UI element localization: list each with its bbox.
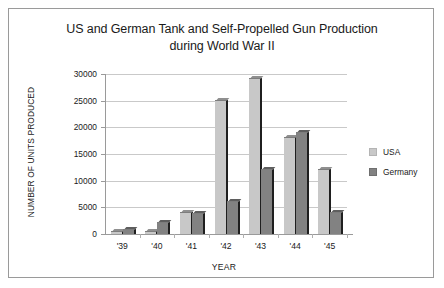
x-axis-tick-label: '39	[107, 241, 137, 251]
chart-legend: USA Germany	[369, 142, 417, 182]
legend-item-usa: USA	[369, 142, 417, 162]
x-axis-tick-label: '44	[280, 241, 310, 251]
y-axis-tick-label: 15000	[53, 149, 97, 159]
y-axis-tick-label: 10000	[53, 176, 97, 186]
y-axis-tick	[101, 154, 105, 155]
y-axis-tick	[101, 101, 105, 102]
y-axis-tick-label: 0	[53, 229, 97, 239]
plot-area	[105, 74, 347, 234]
bar-front-face	[123, 229, 136, 234]
bar-usa-45	[318, 170, 329, 234]
chart-title-line-1: US and German Tank and Self-Propelled Gu…	[29, 21, 415, 38]
y-axis-tick	[101, 207, 105, 208]
x-axis-tick	[347, 234, 348, 238]
bar-germany-39	[123, 230, 134, 234]
bar-front-face	[330, 212, 343, 234]
bar-usa-40	[145, 232, 156, 234]
y-axis-tick-label: 25000	[53, 96, 97, 106]
y-axis-line	[105, 74, 106, 234]
y-axis-title: NUMBER OF UNITS PRODUCED	[26, 72, 36, 232]
legend-item-germany: Germany	[369, 162, 417, 182]
legend-label-usa: USA	[383, 147, 400, 157]
y-axis-tick	[101, 181, 105, 182]
bar-germany-43	[261, 170, 272, 234]
legend-swatch-germany	[369, 168, 377, 176]
bar-front-face	[296, 132, 309, 234]
x-axis-tick	[140, 234, 141, 238]
bar-germany-41	[192, 214, 203, 234]
x-axis-tick-label: '42	[211, 241, 241, 251]
bar-usa-43	[249, 79, 260, 234]
x-axis-tick	[243, 234, 244, 238]
y-axis-tick-label: 20000	[53, 122, 97, 132]
x-axis-tick	[174, 234, 175, 238]
x-axis-tick	[209, 234, 210, 238]
bar-front-face	[192, 213, 205, 234]
x-axis-tick	[312, 234, 313, 238]
bar-germany-44	[296, 133, 307, 234]
bar-germany-45	[330, 213, 341, 234]
bar-germany-42	[227, 202, 238, 234]
chart-title: US and German Tank and Self-Propelled Gu…	[29, 21, 415, 55]
x-axis-tick-label: '41	[176, 241, 206, 251]
y-axis-tick	[101, 234, 105, 235]
x-axis-tick-label: '43	[246, 241, 276, 251]
y-axis-tick	[101, 74, 105, 75]
x-axis-tick	[278, 234, 279, 238]
chart-title-line-2: during World War II	[29, 38, 415, 55]
chart-frame: US and German Tank and Self-Propelled Gu…	[8, 8, 434, 278]
bar-usa-39	[111, 232, 122, 234]
x-axis-line	[105, 234, 353, 235]
bar-usa-44	[284, 138, 295, 234]
y-axis-tick-label: 30000	[53, 69, 97, 79]
bar-front-face	[227, 201, 240, 234]
gridline	[105, 74, 347, 75]
x-axis-title: YEAR	[99, 262, 349, 272]
x-axis-tick-label: '40	[142, 241, 172, 251]
legend-label-germany: Germany	[383, 167, 417, 177]
bar-usa-42	[215, 101, 226, 234]
bar-front-face	[261, 169, 274, 234]
x-axis-tick-label: '45	[315, 241, 345, 251]
y-axis-tick-label: 5000	[53, 202, 97, 212]
legend-swatch-usa	[369, 148, 377, 156]
y-axis-tick	[101, 127, 105, 128]
bar-germany-40	[157, 223, 168, 234]
bar-usa-41	[180, 213, 191, 234]
bar-front-face	[157, 222, 170, 234]
